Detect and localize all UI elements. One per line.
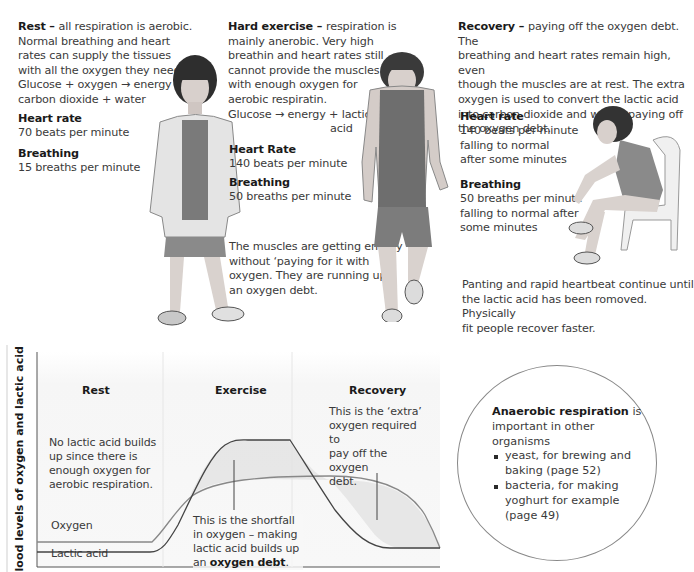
rest-heart-rate-label: Heart rate xyxy=(18,112,82,127)
recovery-heart-rate-label: Heart rate xyxy=(460,110,524,125)
exercise-heart-rate-value: 140 beats per minute xyxy=(229,157,347,172)
exercise-breathing-label: Breathing xyxy=(229,176,290,191)
chart-lactic-acid-label: Lactic acid xyxy=(51,547,108,561)
recovery-breathing-value: 50 breaths per minute falling to normal … xyxy=(460,192,582,236)
rest-breathing-value: 15 breaths per minute xyxy=(18,161,140,176)
recovering-person-illustration xyxy=(565,100,694,270)
list-item: yeast, for brewing and baking (page 52) xyxy=(492,449,642,479)
anaerobic-respiration-term: Anaerobic respiration xyxy=(492,405,629,418)
anaerobic-examples-list: yeast, for brewing and baking (page 52) … xyxy=(492,449,642,523)
exercise-breathing-value: 50 breaths per minute xyxy=(229,190,351,205)
rest-breathing-label: Breathing xyxy=(18,147,79,162)
list-item: bacteria, for making yoghurt for example… xyxy=(492,479,642,523)
recovery-heart-rate-value: 140 beats per minute falling to normal a… xyxy=(460,124,578,168)
exercising-person-illustration xyxy=(352,52,452,322)
chart-rest-note: No lactic acid builds up since there is … xyxy=(49,436,159,492)
exercise-heart-rate-label: Heart Rate xyxy=(229,143,296,158)
exercise-title: Hard exercise – xyxy=(228,20,326,33)
chart-phase-rest: Rest xyxy=(82,384,110,397)
chart-shortfall-note: This is the shortfall in oxygen – making… xyxy=(193,514,303,570)
recovery-note: Panting and rapid heartbeat continue unt… xyxy=(462,278,694,336)
recovery-title: Recovery – xyxy=(458,20,528,33)
chart-phase-recovery: Recovery xyxy=(349,384,406,397)
rest-heart-rate-value: 70 beats per minute xyxy=(18,126,129,141)
oxygen-debt-term: oxygen debt xyxy=(210,556,286,569)
chart-extra-oxygen-note: This is the ‘extra’ oxygen required to p… xyxy=(329,405,429,489)
chart-oxygen-label: Oxygen xyxy=(51,519,93,533)
rest-title: Rest – xyxy=(18,20,59,33)
anaerobic-info-text: Anaerobic respiration is important in ot… xyxy=(492,405,642,523)
chart-phase-exercise: Exercise xyxy=(215,384,267,397)
recovery-breathing-label: Breathing xyxy=(460,178,521,193)
